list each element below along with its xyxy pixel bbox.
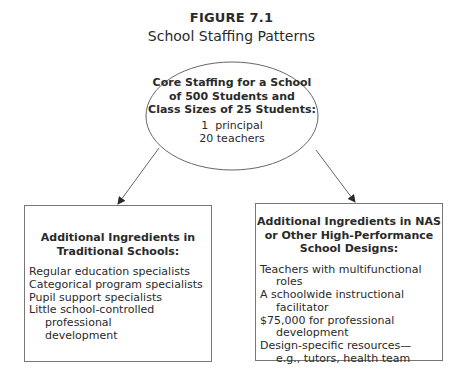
- heading-line: Traditional Schools:: [25, 245, 211, 259]
- high-performance-heading: Additional Ingredients in NAS or Other H…: [256, 215, 442, 256]
- traditional-list: Regular education specialists Categorica…: [29, 266, 211, 343]
- arrow-to-traditional: [118, 148, 159, 204]
- heading-line: Additional Ingredients in: [25, 231, 211, 245]
- heading-line: Additional Ingredients in NAS: [256, 215, 442, 229]
- arrow-to-high-performance: [316, 150, 355, 202]
- core-item: 20 teachers: [146, 132, 318, 145]
- core-heading-line: Core Staffing for a School: [146, 76, 318, 90]
- traditional-schools-box: Additional Ingredients in Traditional Sc…: [24, 205, 212, 362]
- heading-line: School Designs:: [256, 242, 442, 256]
- list-item: Teachers with multifunctional roles: [260, 264, 442, 290]
- list-item: Regular education specialists: [29, 266, 211, 279]
- list-item: A schoolwide instructional facilitator: [260, 289, 442, 315]
- heading-line: or Other High-Performance: [256, 229, 442, 243]
- core-item: 1 principal: [146, 119, 318, 132]
- high-performance-list: Teachers with multifunctional roles A sc…: [260, 264, 442, 366]
- list-item: $75,000 for professional development: [260, 315, 442, 341]
- list-item: Categorical program specialists: [29, 279, 211, 292]
- high-performance-box: Additional Ingredients in NAS or Other H…: [255, 203, 443, 361]
- core-heading-line: of 500 Students and: [146, 90, 318, 104]
- core-staffing-text: Core Staffing for a School of 500 Studen…: [146, 76, 318, 145]
- list-item: Design-specific resources—e.g., tutors, …: [260, 340, 442, 366]
- list-item: Little school-controlled professional de…: [29, 304, 211, 342]
- core-heading-line: Class Sizes of 25 Students:: [146, 103, 318, 117]
- traditional-heading: Additional Ingredients in Traditional Sc…: [25, 231, 211, 258]
